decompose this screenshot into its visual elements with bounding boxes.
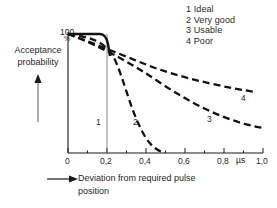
y-axis-label-line2: probability	[3, 56, 73, 68]
x-axis-arrow-icon	[47, 176, 78, 183]
legend-item-2: 2 Very good	[186, 15, 235, 26]
legend-item-3: 3 Usable	[186, 25, 235, 36]
y-axis-label: Acceptance probability	[3, 44, 73, 68]
x-axis-label-line1: Deviation from required pulse	[78, 172, 268, 185]
x-tick-label-0p8: 0,8	[217, 156, 229, 166]
y-axis-arrow-icon	[34, 74, 41, 122]
legend-item-4: 4 Poor	[186, 36, 235, 47]
x-axis-label: Deviation from required pulse position	[78, 172, 268, 198]
x-axis-unit: µs	[236, 155, 245, 165]
curve-label-4: 4	[241, 93, 246, 103]
curve-label-1: 1	[96, 117, 101, 127]
curve-label-2: 2	[133, 117, 138, 127]
x-axis-ticks	[68, 148, 263, 153]
x-tick-label-0p6: 0,6	[178, 156, 190, 166]
x-tick-label-0p2: 0,2	[100, 156, 112, 166]
x-tick-label-1p0: 1,0	[256, 156, 268, 166]
x-tick-label-0p4: 0,4	[139, 156, 151, 166]
x-tick-label-0: 0	[65, 156, 70, 166]
curve-3-usable	[68, 34, 263, 128]
legend: 1 Ideal 2 Very good 3 Usable 4 Poor	[186, 4, 235, 46]
legend-item-1: 1 Ideal	[186, 4, 235, 15]
y-axis-label-line1: Acceptance	[3, 44, 73, 56]
y-axis-unit: %	[64, 35, 70, 42]
curve-label-3: 3	[207, 114, 212, 124]
x-axis-label-line2: position	[78, 185, 268, 198]
curve-2-very-good	[68, 34, 165, 153]
